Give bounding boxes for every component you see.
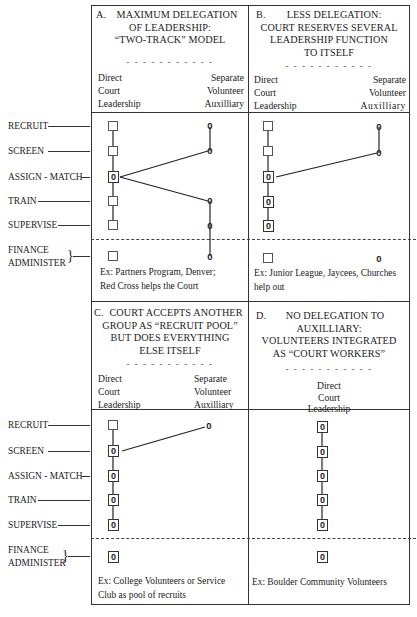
panel-b-title-line: TO ITSELF <box>252 47 406 60</box>
example-line: Red Cross helps the Court <box>100 279 216 293</box>
row-label-screen: SCREEN <box>8 146 44 157</box>
panel-b-auxiliary-header: Separate Volunteer Auxilliary <box>352 73 406 112</box>
row-tick <box>58 525 90 526</box>
row-tick <box>58 225 90 226</box>
panel-b-title-line: LEADERSHIP FUNCTION <box>252 34 406 47</box>
direct-marker-box <box>108 420 118 430</box>
auxiliary-marker: 0 <box>206 221 214 231</box>
row-tick <box>81 476 90 477</box>
direct-marker-box <box>108 251 118 261</box>
direct-marker-box <box>108 196 118 206</box>
direct-marker-volunteer-box: 0 <box>108 494 119 506</box>
panel-a-letter: A. <box>96 9 106 22</box>
panel-b-title-line: COURT RESERVES SEVERAL <box>252 22 406 35</box>
row-tick <box>48 151 90 152</box>
row-tick <box>48 451 90 452</box>
panel-a-title-line: OF LEADERSHIP: <box>96 22 244 35</box>
row-tick <box>73 256 90 257</box>
header-line: Court <box>98 385 141 398</box>
panel-c-letter: C. <box>94 307 104 320</box>
header-line: Auxilliary <box>194 398 246 411</box>
header-line: Leadership <box>98 97 141 110</box>
auxiliary-marker: 0 <box>205 421 213 431</box>
auxiliary-marker: 0 <box>206 121 214 131</box>
direct-marker-box <box>263 146 273 156</box>
header-line: Volunteer <box>192 84 244 97</box>
row-tick <box>48 425 90 426</box>
panel-c-title-line: GROUP AS “RECRUIT POOL” <box>94 320 246 333</box>
row-label-administer: ADMINISTER <box>8 558 66 569</box>
auxiliary-marker: 0 <box>206 196 214 206</box>
header-line: Volunteer <box>194 385 246 398</box>
auxiliary-marker: 0 <box>375 254 383 264</box>
header-line: Direct <box>254 73 297 86</box>
auxiliary-marker: 0 <box>375 122 383 132</box>
row-label-recruit: RECRUIT <box>8 121 48 132</box>
header-line: Auxilliary <box>352 99 406 112</box>
auxiliary-marker: 0 <box>206 252 214 262</box>
row-tick <box>48 126 90 127</box>
header-line: Volunteer <box>352 86 406 99</box>
panel-b-letter: B. <box>256 9 266 22</box>
row-label-train: TRAIN <box>8 196 37 207</box>
panel-b-title: B. LESS DELEGATION: COURT RESERVES SEVER… <box>252 9 406 59</box>
direct-marker-volunteer-box: 0 <box>108 445 119 457</box>
header-line: Direct <box>98 71 141 84</box>
panel-a-separator: - - - - - - - - - - - <box>96 57 244 67</box>
row-tick <box>38 201 90 202</box>
direct-marker-volunteer-box: 0 <box>108 551 119 563</box>
direct-marker-volunteer-box: 0 <box>263 171 274 183</box>
direct-marker-volunteer-box: 0 <box>317 519 328 531</box>
direct-marker-volunteer-box: 0 <box>317 446 328 458</box>
header-line: Leadership <box>252 403 406 415</box>
row-label-administer: ADMINISTER <box>8 258 66 269</box>
direct-marker-box <box>108 121 118 131</box>
top-header-divider <box>91 112 410 113</box>
panel-a-auxiliary-header: Separate Volunteer Auxilliary <box>192 71 244 110</box>
panel-d-separator: - - - - - - - - - - - <box>252 364 406 374</box>
example-line: Club as pool of recruits <box>98 588 225 602</box>
panel-d-title-line: AUXILLIARY: <box>252 323 406 336</box>
panel-c-example: Ex: College Volunteers or Service Club a… <box>98 574 225 602</box>
example-line: help out <box>254 280 396 294</box>
panel-d-direct-header: Direct Court Leadership <box>252 380 406 415</box>
header-line: Auxilliary <box>192 97 244 110</box>
panel-c-separator: - - - - - - - - - - - <box>94 359 246 369</box>
direct-marker-box <box>108 146 118 156</box>
direct-marker-volunteer-box: 0 <box>263 196 274 208</box>
direct-marker-volunteer-box: 0 <box>263 220 274 232</box>
header-line: Court <box>252 392 406 404</box>
header-line: Separate <box>352 73 406 86</box>
panel-c-title: C. COURT ACCEPTS ANOTHER GROUP AS “RECRU… <box>94 307 246 357</box>
example-line: Ex: Junior League, Jaycees, Churches <box>254 266 396 280</box>
header-line: Leadership <box>98 398 141 411</box>
header-line: Direct <box>98 372 141 385</box>
panel-d-example: Ex: Boulder Community Volunteers <box>252 575 387 589</box>
panel-b-direct-header: Direct Court Leadership <box>254 73 297 112</box>
auxiliary-marker: 0 <box>206 146 214 156</box>
panel-a-direct-header: Direct Court Leadership <box>98 71 141 110</box>
header-line: Court <box>98 84 141 97</box>
row-label-supervise: SUPERVISE <box>8 520 57 531</box>
example-line: Ex: College Volunteers or Service <box>98 574 225 588</box>
row-label-assign-match: ASSIGN - MATCH <box>8 471 83 482</box>
panel-c-title-line: BUT DOES EVERYTHING <box>94 332 246 345</box>
header-line: Leadership <box>254 99 297 112</box>
row-label-train: TRAIN <box>8 495 37 506</box>
top-dashed-separator <box>91 239 416 240</box>
panel-d-title-line: AS “COURT WORKERS” <box>252 348 406 361</box>
panel-a-title-line: MAXIMUM DELEGATION <box>96 9 244 22</box>
header-line: Court <box>254 86 297 99</box>
panel-c-auxiliary-header: Separate Volunteer Auxilliary <box>194 372 246 411</box>
center-divider <box>248 5 249 605</box>
panel-b-example: Ex: Junior League, Jaycees, Churches hel… <box>254 266 396 294</box>
panel-a-example: Ex: Partners Program, Denver; Red Cross … <box>100 265 216 293</box>
header-line: Direct <box>252 380 406 392</box>
header-line: Separate <box>194 372 246 385</box>
panel-c-title-line: COURT ACCEPTS ANOTHER <box>94 307 246 320</box>
direct-marker-box <box>108 220 118 230</box>
row-tick <box>68 556 90 557</box>
row-label-recruit: RECRUIT <box>8 420 48 431</box>
row-label-assign-match: ASSIGN - MATCH <box>8 172 83 183</box>
direct-marker-volunteer-box: 0 <box>108 171 119 183</box>
